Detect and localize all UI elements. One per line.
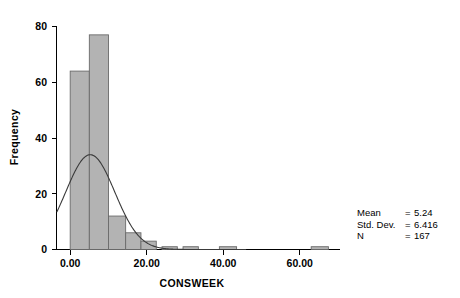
histogram-bar [108, 216, 125, 249]
y-tick-label-80: 80 [35, 20, 47, 32]
y-tick-label-40: 40 [35, 132, 47, 144]
histogram-bar [141, 241, 156, 249]
x-tick-label-20: 20.00 [134, 257, 160, 269]
y-tick-label-0: 0 [41, 243, 47, 255]
x-tick-label-60: 60.00 [287, 257, 313, 269]
stat-equals-n: = [405, 230, 414, 242]
stat-label-n: N [357, 230, 405, 242]
stat-label-mean: Mean [357, 207, 405, 219]
y-tick-label-60: 60 [35, 76, 47, 88]
histogram-bar [89, 35, 108, 250]
histogram-figure: 0 20 40 60 80 Frequency 0.00 20.00 40.00… [0, 0, 460, 298]
stat-value-std-dev: 6.416 [414, 219, 438, 231]
y-tick-label-20: 20 [35, 188, 47, 200]
y-axis-ticks [52, 27, 57, 250]
stat-equals-mean: = [405, 207, 414, 219]
stat-equals-std-dev: = [405, 219, 414, 231]
stat-row-mean: Mean = 5.24 [357, 207, 438, 219]
stat-value-n: 167 [414, 230, 430, 242]
stat-row-std-dev: Std. Dev. = 6.416 [357, 219, 438, 231]
histogram-bars [70, 35, 328, 250]
y-axis-title: Frequency [8, 109, 20, 166]
x-tick-label-40: 40.00 [210, 257, 236, 269]
stat-value-mean: 5.24 [414, 207, 433, 219]
statistics-annotation: Mean = 5.24 Std. Dev. = 6.416 N = 167 [357, 207, 438, 242]
x-axis-ticks [70, 250, 300, 255]
histogram-plot-area: 0 20 40 60 80 Frequency 0.00 20.00 40.00… [0, 0, 460, 298]
stat-row-n: N = 167 [357, 230, 438, 242]
histogram-bar [311, 247, 328, 250]
histogram-bar [70, 71, 89, 249]
stat-label-std-dev: Std. Dev. [357, 219, 405, 231]
x-tick-label-0: 0.00 [60, 257, 81, 269]
x-axis-title: CONSWEEK [159, 277, 224, 289]
